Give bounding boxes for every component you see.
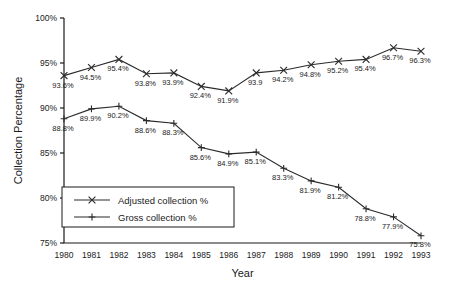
y-axis-tick-label: 95% [40,58,57,68]
data-point-label: 83.3% [272,173,294,182]
data-point-label: 94.2% [272,75,294,84]
data-point-marker [253,149,260,156]
data-point-marker [308,178,315,185]
data-point-label: 75.8% [409,240,431,249]
data-point-label: 88.8% [52,124,74,133]
x-axis-tick-label: 1991 [357,250,376,260]
data-point-label: 93.6% [52,81,74,90]
x-axis-tick-label: 1981 [82,250,101,260]
data-point-label: 94.5% [80,73,102,82]
data-point-label: 81.9% [300,186,322,195]
data-point-label: 92.4% [190,91,212,100]
y-axis-title: Collection Percentage [12,77,24,185]
data-point-marker [143,117,150,124]
y-axis-tick-label: 85% [40,148,57,158]
data-point-label: 95.4% [354,64,376,73]
x-axis-tick-label: 1984 [164,250,183,260]
data-point-marker [61,115,68,122]
collection-percentage-line-chart: 75%80%85%90%95%100%198019811982198319841… [0,0,460,286]
legend-label: Gross collection % [118,212,197,223]
data-point-marker [418,232,425,239]
y-axis-tick-label: 80% [40,193,57,203]
x-axis-tick-label: 1993 [412,250,431,260]
x-axis-tick-label: 1988 [274,250,293,260]
y-axis-tick-label: 90% [40,103,57,113]
x-axis-tick-label: 1987 [247,250,266,260]
data-point-label: 89.9% [80,114,102,123]
data-point-label: 78.8% [354,214,376,223]
x-axis-tick-label: 1985 [192,250,211,260]
data-point-label: 81.2% [327,192,349,201]
data-point-marker [280,165,287,172]
data-point-label: 90.2% [107,111,129,120]
x-axis-tick-label: 1983 [137,250,156,260]
data-point-label: 84.9% [217,159,239,168]
x-axis-tick-label: 1982 [109,250,128,260]
data-point-label: 93.9 [248,78,263,87]
data-point-label: 96.7% [382,53,404,62]
data-point-marker [88,106,95,113]
data-point-marker [116,103,123,110]
y-axis-tick-label: 100% [35,13,57,23]
x-axis-tick-label: 1986 [219,250,238,260]
data-point-label: 93.8% [135,79,157,88]
chart-canvas: 75%80%85%90%95%100%198019811982198319841… [0,0,460,286]
data-point-marker [390,214,397,221]
data-point-label: 94.8% [300,70,322,79]
x-axis-title: Year [231,267,254,279]
data-point-label: 88.3% [162,128,184,137]
y-axis-tick-label: 75% [40,238,57,248]
x-axis-tick-label: 1992 [384,250,403,260]
data-point-label: 96.3% [409,56,431,65]
data-point-label: 88.6% [135,126,157,135]
x-axis-tick-label: 1989 [302,250,321,260]
data-point-marker [88,64,95,71]
data-point-label: 95.4% [107,64,129,73]
x-axis-tick-label: 1980 [55,250,74,260]
data-point-label: 77.9% [382,222,404,231]
data-point-marker [116,56,123,63]
data-point-label: 85.1% [245,157,267,166]
data-point-marker [225,151,232,158]
data-point-label: 95.2% [327,66,349,75]
legend-label: Adjusted collection % [118,195,209,206]
data-point-label: 93.9% [162,78,184,87]
data-point-label: 91.9% [217,96,239,105]
x-axis-tick-label: 1990 [329,250,348,260]
data-point-label: 85.6% [190,153,212,162]
